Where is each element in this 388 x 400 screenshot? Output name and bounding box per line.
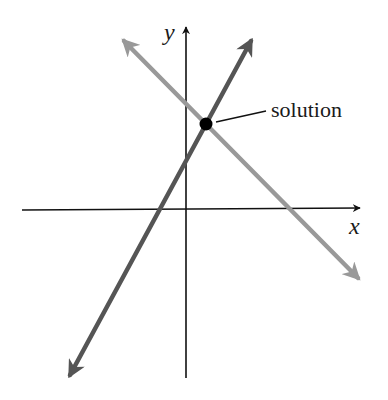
decreasing-line xyxy=(124,41,358,278)
solution-leader-line xyxy=(216,111,266,122)
x-axis-label: x xyxy=(348,213,360,239)
system-of-equations-diagram: y x solution xyxy=(0,0,388,400)
x-axis xyxy=(22,208,360,210)
solution-label: solution xyxy=(271,97,342,122)
increasing-line xyxy=(70,41,251,375)
solution-point xyxy=(200,118,213,131)
y-axis-label: y xyxy=(162,19,175,45)
